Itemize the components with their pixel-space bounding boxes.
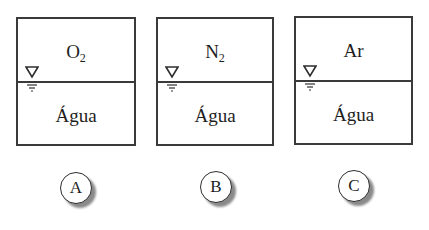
- label-badge-b: B: [200, 171, 234, 205]
- liquid-label-a: Água: [18, 106, 134, 126]
- label-badge-a: A: [60, 172, 94, 206]
- badge-circle-b: B: [200, 171, 232, 203]
- water-level-icon: [25, 66, 39, 92]
- liquid-label-b: Água: [158, 106, 272, 126]
- gas-symbol-c: Ar: [343, 40, 363, 61]
- gas-label-c: Ar: [296, 41, 411, 61]
- gas-subscript-a: 2: [80, 51, 86, 65]
- gas-label-b: N2: [158, 42, 272, 62]
- gas-symbol-a: O: [66, 41, 80, 62]
- badge-circle-a: A: [60, 172, 92, 204]
- container-c: Ar Água: [294, 16, 413, 145]
- gas-symbol-b: N: [205, 41, 219, 62]
- badge-circle-c: C: [338, 170, 370, 202]
- container-b: N2 Água: [156, 17, 274, 146]
- gas-subscript-b: 2: [219, 51, 225, 65]
- container-a: O2 Água: [16, 17, 136, 146]
- gas-label-a: O2: [18, 42, 134, 62]
- liquid-label-c: Água: [296, 105, 411, 125]
- water-level-icon: [303, 65, 317, 91]
- label-badge-c: C: [338, 170, 372, 204]
- water-level-icon: [165, 66, 179, 92]
